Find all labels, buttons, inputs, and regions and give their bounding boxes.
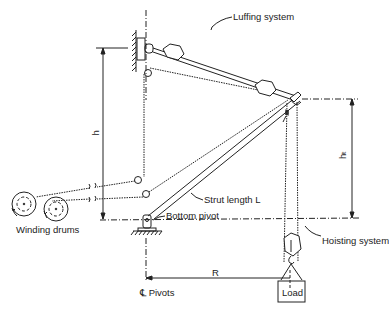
- label-winding-drums: Winding drums: [16, 225, 79, 235]
- winding-drum-1: [12, 192, 36, 216]
- winding-drum-2: [44, 197, 68, 221]
- label-hoisting-system: Hoisting system: [322, 236, 389, 246]
- top-wall-mount: [132, 30, 153, 72]
- label-load: Load: [282, 288, 303, 298]
- label-bottom-pivot: Bottom pivot: [166, 211, 219, 221]
- label-height-ht: hₜ: [338, 151, 348, 159]
- label-pivots: ℄ Pivots: [140, 288, 175, 298]
- label-height-h: h: [91, 130, 101, 135]
- label-strut-length: Strut length L: [204, 195, 261, 205]
- label-radius: R: [212, 268, 219, 278]
- label-luffing-system: Luffing system: [233, 12, 294, 22]
